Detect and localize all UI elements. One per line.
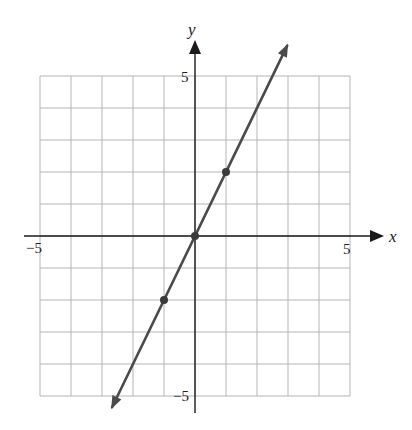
x-tick-label-neg5: −5: [26, 240, 42, 256]
y-tick-label-5: 5: [181, 69, 189, 85]
line-arrow-down-icon: [111, 395, 121, 409]
y-tick-label-neg5: −5: [173, 388, 189, 404]
y-axis-arrow-icon: [189, 40, 201, 54]
coordinate-plane: x y −5 5 5 −5: [0, 0, 412, 430]
x-axis-arrow-icon: [370, 230, 384, 242]
axes: [24, 40, 384, 413]
data-point: [160, 296, 168, 304]
data-point: [222, 168, 230, 176]
graph-line: [112, 46, 287, 408]
y-axis-label: y: [186, 20, 196, 39]
data-point: [191, 232, 199, 240]
x-axis-label: x: [388, 227, 397, 246]
x-tick-label-5: 5: [343, 241, 351, 257]
line-arrow-up-icon: [278, 44, 288, 58]
line-series: [111, 44, 288, 409]
axis-labels: x y −5 5 5 −5: [26, 20, 397, 404]
